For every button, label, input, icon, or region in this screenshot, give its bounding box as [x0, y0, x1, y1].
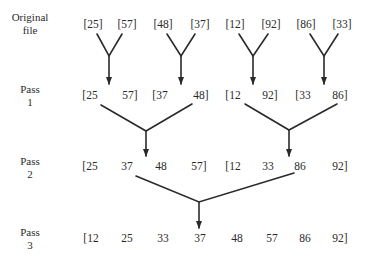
merge-v-left	[101, 104, 192, 157]
merge-v-final	[136, 173, 294, 229]
merge-y-1	[97, 34, 122, 85]
merge-v-right	[245, 104, 337, 157]
merge-y-2	[167, 34, 195, 85]
merge-y-4	[310, 34, 338, 85]
merge-y-3	[239, 34, 268, 85]
merge-connectors	[0, 0, 369, 260]
